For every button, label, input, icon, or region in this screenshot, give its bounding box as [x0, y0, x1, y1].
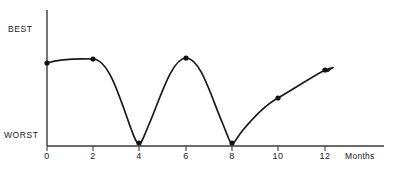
x-axis-title: Months — [345, 152, 375, 161]
data-point-month-8 — [229, 140, 234, 145]
data-point-month-12 — [322, 67, 327, 72]
data-point-month-10 — [275, 95, 280, 100]
x-tick-label-6: 6 — [183, 152, 189, 161]
data-point-markers — [44, 55, 327, 145]
x-tick-label-4: 4 — [136, 152, 142, 161]
x-tick-label-2: 2 — [90, 152, 96, 161]
x-tick-label-8: 8 — [229, 152, 235, 161]
y-axis-high-label: BEST — [8, 25, 33, 34]
line-chart-plot — [0, 0, 401, 171]
x-tick-label-10: 10 — [272, 152, 283, 161]
data-point-month-2 — [90, 56, 95, 61]
data-point-month-4 — [136, 140, 141, 145]
data-curve — [47, 58, 333, 144]
x-tick-label-0: 0 — [44, 152, 50, 161]
chart-figure: BEST WORST 0 2 4 6 8 10 12 Months — [0, 0, 401, 171]
x-tick-label-12: 12 — [319, 152, 330, 161]
data-point-month-6 — [183, 55, 188, 60]
y-axis-low-label: WORST — [4, 131, 39, 140]
data-point-month-0 — [44, 60, 49, 65]
